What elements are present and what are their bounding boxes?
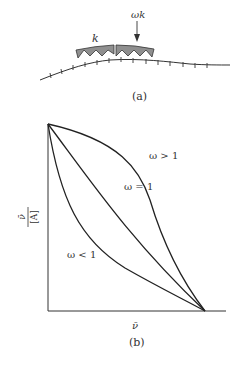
label-omega-eq-1: ω = 1 [124,181,153,192]
label-omega-k: ωk [131,9,145,20]
caption-b: (b) [129,336,145,349]
label-omega-lt-1: ω < 1 [67,249,96,260]
ligand-block-wk [116,45,154,57]
y-axis-label: ν̄ [A] [17,207,39,227]
label-omega-gt-1: ω > 1 [149,150,178,161]
figure-canvas: k ωk (a) ω > 1 ω = 1 ω < 1 ν̄ [A] ν̄ (b) [0,0,242,365]
curve-omega-less-1 [48,124,205,311]
ligand-block-k [76,45,114,58]
curve-omega-equal-1 [48,124,205,311]
x-axis-label: ν̄ [132,320,138,331]
panel-a: k ωk (a) [40,9,230,103]
arrow-down-icon [134,34,140,42]
caption-a: (a) [132,90,147,103]
curve-omega-greater-1 [48,124,205,311]
panel-b: ω > 1 ω = 1 ω < 1 ν̄ [A] ν̄ (b) [17,124,226,349]
y-label-numerator: ν̄ [17,214,27,220]
y-label-denominator: [A] [29,210,39,224]
lattice-curve [40,59,230,80]
label-k: k [92,32,99,45]
